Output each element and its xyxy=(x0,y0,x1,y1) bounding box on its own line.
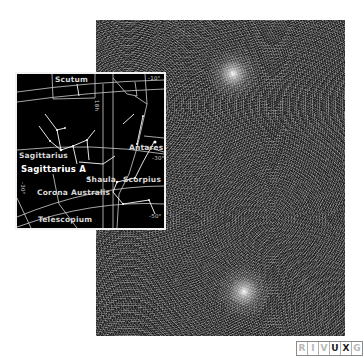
label-scutum: Scutum xyxy=(55,76,88,84)
badge-letter-i: I xyxy=(308,342,319,355)
badge-letter-v: V xyxy=(319,342,330,355)
label-dec-minus30: -30° xyxy=(152,156,165,162)
wavelength-badge: R I V U X G xyxy=(296,341,363,356)
badge-letter-g: G xyxy=(352,342,362,355)
badge-letter-r: R xyxy=(297,342,308,355)
label-antares: Antares xyxy=(129,144,163,152)
label-dec-minus10: -10° xyxy=(148,76,161,82)
badge-letter-u: U xyxy=(330,342,341,355)
badge-letter-x: X xyxy=(341,342,352,355)
label-sagittarius-a: Sagittarius A xyxy=(21,165,86,174)
label-shaula: Shaula xyxy=(86,176,116,184)
label-dec-minus50: -50° xyxy=(149,214,162,220)
label-scorpius: Scorpius xyxy=(123,176,161,184)
label-sagittarius: Sagittarius xyxy=(19,152,68,160)
label-ra-18h: 18h xyxy=(94,100,100,111)
finder-chart: Scutum -10° 18h Antares -30° Sagittarius… xyxy=(15,72,166,230)
label-corona-australis: Corona Australis xyxy=(37,189,110,197)
label-telescopium: Telescopium xyxy=(38,216,92,224)
label-dec-minus30-left: -30° xyxy=(20,182,26,195)
